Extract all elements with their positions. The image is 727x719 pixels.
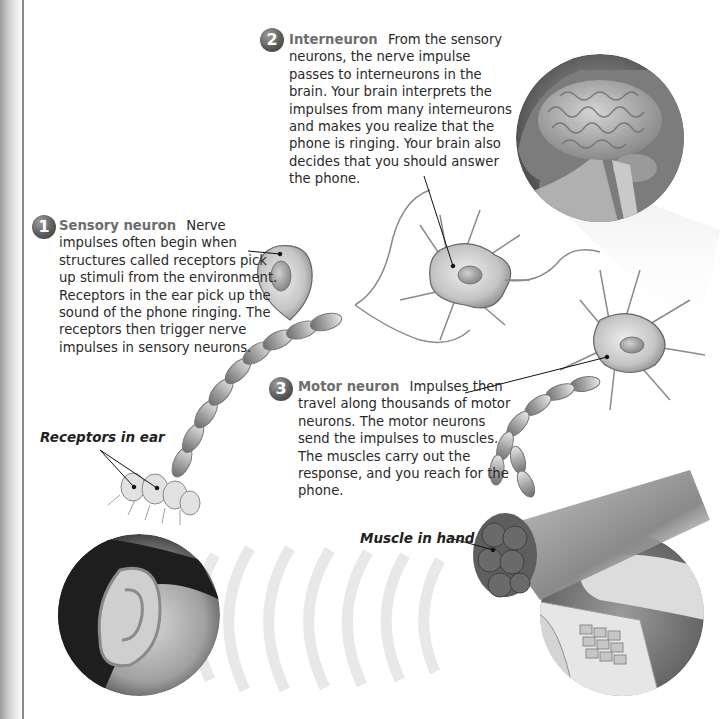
step-number-badge: 2	[260, 28, 284, 52]
callout-title: Motor neuron	[298, 379, 399, 394]
callout-motor-neuron: 3 Motor neuron Impulses then travel alon…	[298, 378, 513, 500]
callout-interneuron: 2 Interneuron From the sensory neurons, …	[289, 31, 514, 188]
ear-receptors	[121, 473, 200, 515]
step-number-badge: 1	[32, 215, 56, 239]
callout-text: From the sensory neurons, the nerve impu…	[289, 32, 512, 186]
label-muscle-in-hand: Muscle in hand	[360, 530, 475, 546]
callout-title: Sensory neuron	[59, 218, 176, 233]
callout-text: Nerve impulses often begin when structur…	[59, 218, 277, 355]
callout-sensory-neuron: 1 Sensory neuron Nerve impulses often be…	[59, 217, 279, 356]
step-number-badge: 3	[269, 377, 293, 401]
ear-inset	[50, 534, 220, 700]
muscle-bundle	[473, 513, 537, 597]
label-receptors-in-ear: Receptors in ear	[40, 429, 165, 445]
brain-inset	[516, 54, 700, 230]
callout-title: Interneuron	[289, 32, 378, 47]
sound-waves	[196, 548, 440, 690]
callout-text: Impulses then travel along thousands of …	[298, 379, 510, 498]
